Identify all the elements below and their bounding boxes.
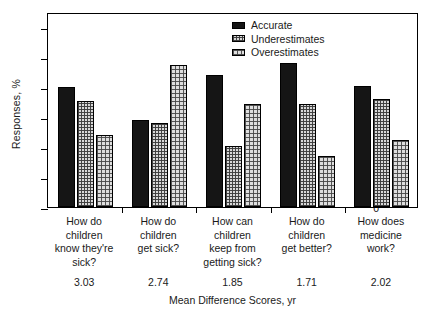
chart-legend: AccurateUnderestimatesOverestimates: [232, 19, 325, 60]
y-tick-0: [41, 209, 48, 210]
bar-group: [48, 14, 122, 207]
bar-accurate: [206, 75, 223, 207]
bar-under: [77, 101, 94, 208]
bar-accurate: [132, 120, 149, 207]
category-label: How doesmedicinework?: [344, 215, 418, 256]
category-label-line: keep from: [195, 242, 269, 256]
legend-label: Underestimates: [251, 33, 325, 46]
category-label-line: children: [195, 229, 269, 243]
legend-label: Overestimates: [251, 46, 319, 59]
y-tick-60: [41, 29, 48, 30]
mean-difference-score: 3.03: [47, 276, 121, 288]
legend-swatch-under: [232, 35, 245, 42]
bar-chart-figure: Responses, % 0102030405060 AccurateUnder…: [0, 0, 431, 319]
category-label-line: How do: [121, 215, 195, 229]
bar-under: [373, 99, 390, 207]
category-label-line: get sick?: [121, 242, 195, 256]
category-label-line: sick?: [47, 256, 121, 270]
category-label: How dochildrenget sick?: [121, 215, 195, 256]
x-axis-title: Mean Difference Scores, yr: [47, 294, 418, 306]
category-label-line: work?: [344, 242, 418, 256]
legend-swatch-over: [232, 49, 245, 56]
category-label-line: How do: [47, 215, 121, 229]
y-tick-30: [41, 119, 48, 120]
category-label-line: getting sick?: [195, 256, 269, 270]
mean-difference-score: 2.74: [121, 276, 195, 288]
bar-group: [345, 14, 419, 207]
bar-over: [392, 140, 409, 208]
bar-under: [151, 123, 168, 207]
x-tick: [271, 207, 272, 213]
bar-group: [122, 14, 196, 207]
bar-under: [225, 146, 242, 208]
x-tick: [196, 207, 197, 213]
bar-over: [96, 135, 113, 207]
legend-label: Accurate: [251, 19, 292, 32]
category-label-line: How does: [344, 215, 418, 229]
category-label-line: How do: [270, 215, 344, 229]
category-label: How canchildrenkeep fromgetting sick?: [195, 215, 269, 269]
y-tick-40: [41, 89, 48, 90]
x-tick: [122, 207, 123, 213]
bar-over: [318, 156, 335, 207]
x-tick: [345, 207, 346, 213]
bar-over: [244, 104, 261, 208]
legend-item: Underestimates: [232, 33, 325, 46]
category-label-line: How can: [195, 215, 269, 229]
legend-swatch-accurate: [232, 22, 245, 29]
category-label-line: get better?: [270, 242, 344, 256]
y-tick-50: [41, 59, 48, 60]
y-tick-10: [41, 179, 48, 180]
mean-difference-score: 1.71: [270, 276, 344, 288]
bar-under: [299, 104, 316, 208]
y-axis-title: Responses, %: [10, 54, 22, 174]
category-label-line: medicine: [344, 229, 418, 243]
mean-difference-score: 2.02: [344, 276, 418, 288]
category-label: How dochildrenget better?: [270, 215, 344, 256]
category-label-line: children: [121, 229, 195, 243]
category-label-line: children: [47, 229, 121, 243]
category-label: How dochildrenknow they'resick?: [47, 215, 121, 269]
category-label-line: children: [270, 229, 344, 243]
bar-accurate: [58, 87, 75, 207]
category-label-line: know they're: [47, 242, 121, 256]
bar-over: [170, 65, 187, 208]
legend-item: Overestimates: [232, 46, 325, 59]
bar-accurate: [354, 86, 371, 208]
legend-item: Accurate: [232, 19, 325, 32]
y-tick-20: [41, 149, 48, 150]
bar-accurate: [280, 63, 297, 207]
mean-difference-score: 1.85: [195, 276, 269, 288]
